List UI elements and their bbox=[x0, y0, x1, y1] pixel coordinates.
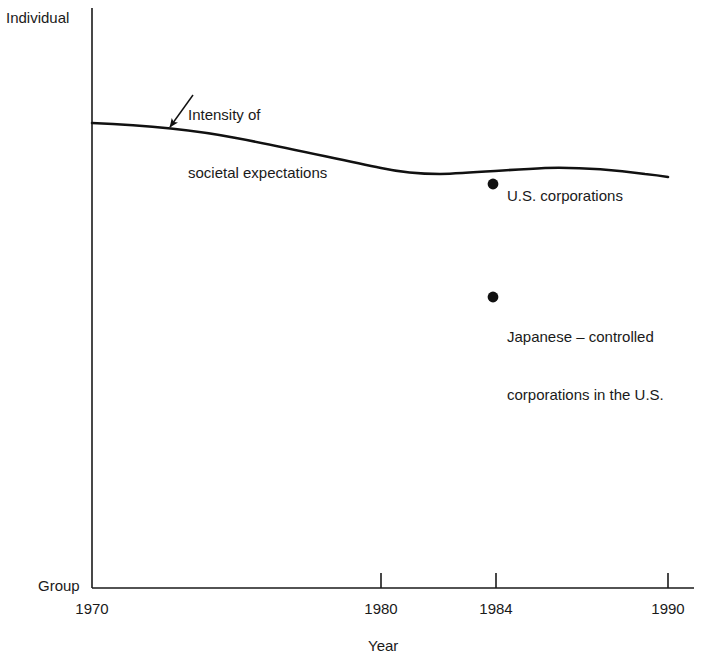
y-axis-top-label: Individual bbox=[6, 8, 69, 27]
annotation-line-2: societal expectations bbox=[188, 163, 327, 182]
data-point-label-japanese-controlled-corporations: Japanese – controlled corporations in th… bbox=[507, 289, 664, 443]
data-point-us-corporations bbox=[488, 179, 499, 190]
series-line-intensity-of-societal-expectations bbox=[92, 123, 668, 177]
x-axis-title: Year bbox=[368, 636, 398, 655]
japanese-label-line-2: corporations in the U.S. bbox=[507, 385, 664, 404]
japanese-label-line-1: Japanese – controlled bbox=[507, 327, 664, 346]
x-tick-label-1990: 1990 bbox=[651, 600, 684, 617]
y-axis-bottom-label: Group bbox=[38, 576, 80, 595]
annotation-intensity-of-societal-expectations: Intensity of societal expectations bbox=[188, 67, 327, 221]
data-point-japanese-controlled-corporations bbox=[488, 292, 499, 303]
x-tick-label-1980: 1980 bbox=[364, 600, 397, 617]
x-tick-label-1970: 1970 bbox=[75, 600, 108, 617]
x-tick-label-1984: 1984 bbox=[479, 600, 512, 617]
annotation-line-1: Intensity of bbox=[188, 105, 327, 124]
chart-figure: Individual Group Year 1970 1980 1984 199… bbox=[0, 0, 706, 665]
data-point-label-us-corporations: U.S. corporations bbox=[507, 186, 623, 205]
